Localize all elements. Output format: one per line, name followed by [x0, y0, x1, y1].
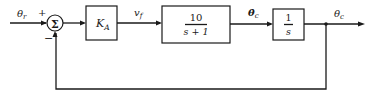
- integrator-numerator: 1: [285, 12, 291, 23]
- integrator-block: 1 s: [273, 9, 304, 40]
- sigma-symbol: Σ: [51, 18, 59, 31]
- output-label: θc: [334, 8, 344, 21]
- plant-denominator: s + 1: [184, 26, 209, 37]
- integrator-denominator: s: [286, 26, 291, 37]
- output-signal: θc: [304, 8, 365, 27]
- gain-block: KA: [86, 6, 117, 40]
- input-label: θr: [17, 8, 27, 21]
- block-diagram: θr + Σ − KA vf 10 s + 1 θ̇c 1 s θc: [0, 0, 377, 94]
- vf-label: vf: [134, 7, 144, 20]
- theta-dot-label: θ̇c: [248, 7, 259, 20]
- plant-numerator: 10: [190, 12, 203, 23]
- input-signal: θr +: [10, 7, 47, 26]
- minus-sign: −: [44, 32, 53, 45]
- plus-sign: +: [38, 7, 46, 18]
- summing-junction: Σ −: [44, 15, 63, 45]
- plant-block: 10 s + 1: [162, 6, 230, 43]
